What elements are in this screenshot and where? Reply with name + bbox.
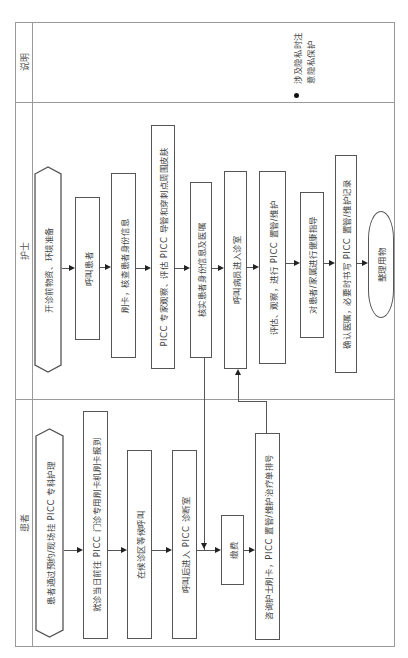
arrow-right-icon bbox=[184, 265, 190, 271]
connector bbox=[64, 550, 77, 551]
arrow-right-icon bbox=[69, 265, 75, 271]
lane-label-patient: 患者 bbox=[17, 514, 30, 532]
arrow-right-icon bbox=[218, 265, 224, 271]
nurse-step-expert-assess: PICC 专家观察、评估 PICC 导管和穿刺点周围皮肤 bbox=[151, 125, 175, 369]
nurse-step-prepare: 开诊前物资、环境准备 bbox=[34, 166, 62, 373]
arrow-right-icon bbox=[166, 547, 172, 553]
lane-header-nurse: 护士 bbox=[15, 102, 32, 399]
nurse-step-perform-picc: 评估、观察，进行 PICC 置管/维护 bbox=[259, 171, 286, 364]
nurse-step-record: 确认医嘱，必要时书写 PICC 置管/维护记录 bbox=[335, 155, 357, 373]
note-privacy-line1: 涉及隐私时注 bbox=[292, 30, 302, 86]
connector bbox=[152, 550, 166, 551]
arrow-right-icon bbox=[294, 260, 300, 266]
nurse-step-call-into-room: 呼叫病员进入诊室 bbox=[224, 171, 247, 369]
lane-label-notes: 说明 bbox=[17, 53, 30, 71]
arrow-up-icon bbox=[235, 369, 241, 375]
nurse-step-verify-identity: 刷卡，核查患者身份信息 bbox=[111, 173, 136, 358]
patient-step-pay: 缴费 bbox=[221, 515, 244, 585]
lane-label-nurse: 护士 bbox=[17, 242, 30, 260]
arrow-right-icon bbox=[121, 547, 127, 553]
connector bbox=[136, 268, 145, 269]
note-privacy-line2: 意隐私保护 bbox=[305, 38, 315, 86]
connector-verify-to-pay bbox=[204, 358, 205, 550]
patient-step-checkin: 就诊当日前往 PICC 门诊专用刷卡机刷卡报到 bbox=[83, 411, 108, 639]
arrow-right-icon bbox=[215, 547, 221, 553]
connector-to-call-room bbox=[238, 375, 239, 401]
arrow-right-icon bbox=[249, 547, 255, 553]
arrow-right-icon bbox=[145, 265, 151, 271]
patient-step-register: 患者通过预约/现场挂 PICC 专科护理 bbox=[35, 428, 64, 638]
arrow-right-icon bbox=[77, 547, 83, 553]
arrow-right-icon bbox=[362, 260, 368, 266]
connector-consult-horizontal bbox=[238, 401, 266, 402]
connector bbox=[286, 263, 294, 264]
patient-step-consult-nurse: 咨询护士刷卡，PICC 置管/维护治疗单排号 bbox=[255, 433, 280, 640]
connector bbox=[197, 550, 215, 551]
nurse-step-tidy-up: 整理用物 bbox=[368, 211, 394, 318]
patient-step-wait: 在候诊区等候呼叫 bbox=[127, 450, 152, 639]
connector-consult-up bbox=[266, 401, 267, 433]
arrow-right-icon bbox=[329, 260, 335, 266]
lane-header-divider bbox=[32, 22, 33, 647]
arrow-right-icon bbox=[105, 264, 111, 270]
nurse-step-verify-orders: 核实患者身份信息及医嘱 bbox=[190, 182, 212, 358]
lane-header-notes: 说明 bbox=[15, 22, 32, 102]
lane-divider-nurse-patient bbox=[15, 399, 395, 400]
lane-divider-notes-nurse bbox=[15, 102, 395, 103]
patient-step-enter-room: 呼叫后进入 PICC 诊断室 bbox=[172, 450, 197, 639]
arrow-right-icon bbox=[253, 264, 259, 270]
nurse-step-health-guidance: 对患者/家属进行健康指导 bbox=[300, 192, 324, 338]
bullet-icon bbox=[294, 93, 299, 98]
arrow-down-icon bbox=[201, 543, 207, 549]
lane-header-patient: 患者 bbox=[15, 399, 32, 647]
nurse-step-call-patient: 呼叫患者 bbox=[75, 197, 100, 340]
connector bbox=[108, 550, 121, 551]
